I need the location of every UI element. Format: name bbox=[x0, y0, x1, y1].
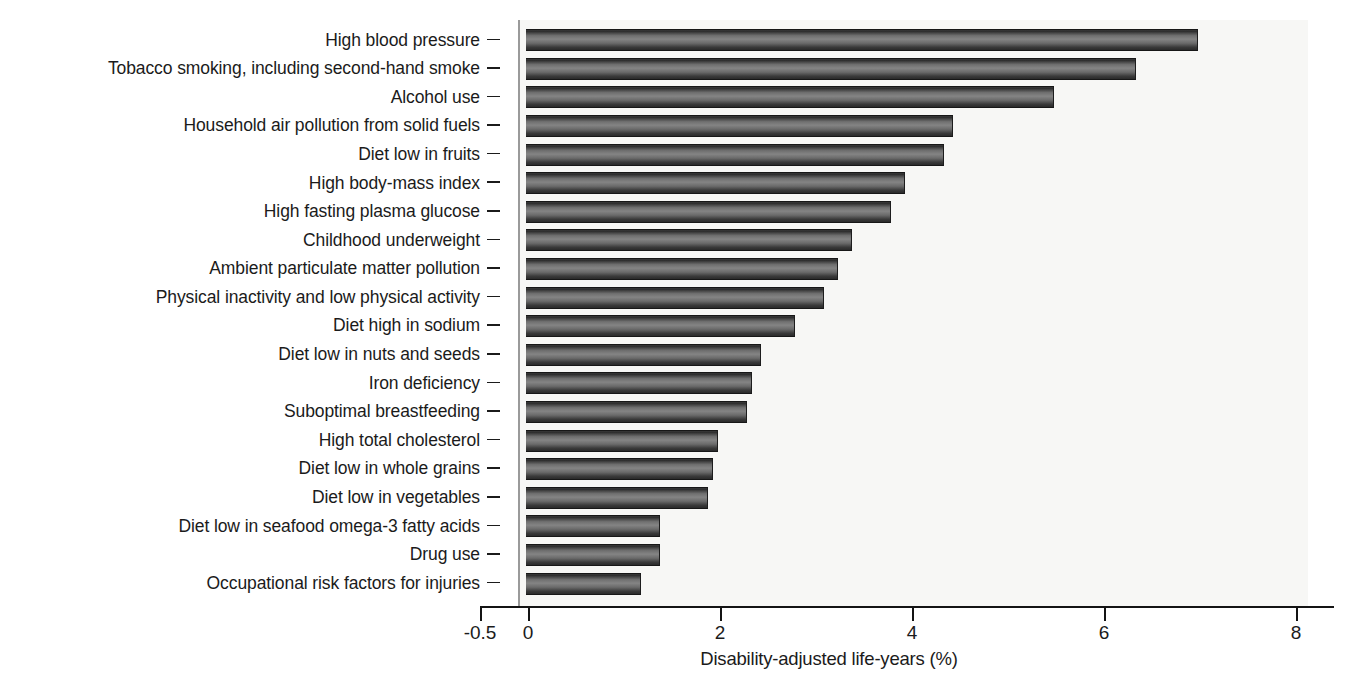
category-label-row: High body-mass index bbox=[0, 169, 500, 198]
bar bbox=[526, 115, 953, 137]
bar bbox=[526, 229, 852, 251]
x-tick-label: 8 bbox=[1291, 622, 1302, 644]
category-label: High fasting plasma glucose bbox=[264, 203, 480, 221]
x-tick-mark bbox=[912, 608, 914, 621]
category-tick-mark bbox=[487, 439, 500, 441]
category-label: Diet low in vegetables bbox=[312, 489, 480, 507]
bar bbox=[526, 29, 1198, 51]
category-label: Diet low in whole grains bbox=[299, 460, 480, 478]
category-tick-mark bbox=[487, 39, 500, 41]
bar bbox=[526, 401, 747, 423]
category-label: Iron deficiency bbox=[369, 375, 480, 393]
category-label-row: High blood pressure bbox=[0, 26, 500, 55]
category-label: Diet low in nuts and seeds bbox=[278, 346, 480, 364]
category-label: Physical inactivity and low physical act… bbox=[156, 289, 480, 307]
category-tick-mark bbox=[487, 153, 500, 155]
bar bbox=[526, 315, 795, 337]
x-axis-title: Disability-adjusted life-years (%) bbox=[0, 648, 1368, 670]
category-label-row: Tobacco smoking, including second-hand s… bbox=[0, 55, 500, 84]
category-label: High body-mass index bbox=[309, 175, 480, 193]
bar-row bbox=[526, 283, 1308, 312]
category-label-row: Suboptimal breastfeeding bbox=[0, 398, 500, 427]
category-label: Suboptimal breastfeeding bbox=[284, 403, 480, 421]
bar bbox=[526, 201, 891, 223]
category-label: Diet high in sodium bbox=[333, 317, 480, 335]
category-label-row: Diet low in vegetables bbox=[0, 484, 500, 513]
category-tick-mark bbox=[487, 96, 500, 98]
bar bbox=[526, 58, 1136, 80]
category-label-row: High total cholesterol bbox=[0, 426, 500, 455]
category-label-row: Diet low in whole grains bbox=[0, 455, 500, 484]
x-tick-label: -0.5 bbox=[464, 622, 497, 644]
category-label-row: Iron deficiency bbox=[0, 369, 500, 398]
category-label-row: Diet low in fruits bbox=[0, 140, 500, 169]
category-label-row: Diet low in seafood omega-3 fatty acids bbox=[0, 512, 500, 541]
x-tick-mark bbox=[1296, 608, 1298, 621]
category-tick-mark bbox=[487, 181, 500, 183]
bar bbox=[526, 344, 761, 366]
x-tick-label: 0 bbox=[523, 622, 534, 644]
bar-row bbox=[526, 398, 1308, 427]
bar-row bbox=[526, 83, 1308, 112]
category-axis-labels: High blood pressureTobacco smoking, incl… bbox=[0, 26, 500, 598]
bar-row bbox=[526, 226, 1308, 255]
category-label: Childhood underweight bbox=[303, 232, 480, 250]
category-tick-mark bbox=[487, 67, 500, 69]
bar-row bbox=[526, 55, 1308, 84]
category-label: Ambient particulate matter pollution bbox=[209, 260, 480, 278]
x-tick-mark bbox=[528, 608, 530, 621]
category-tick-mark bbox=[487, 124, 500, 126]
category-tick-mark bbox=[487, 553, 500, 555]
bar bbox=[526, 287, 824, 309]
category-label-row: Alcohol use bbox=[0, 83, 500, 112]
category-label: Occupational risk factors for injuries bbox=[207, 575, 480, 593]
category-tick-mark bbox=[487, 324, 500, 326]
category-label: Tobacco smoking, including second-hand s… bbox=[108, 60, 480, 78]
category-tick-mark bbox=[487, 210, 500, 212]
category-label: High blood pressure bbox=[325, 32, 480, 50]
bar bbox=[526, 172, 905, 194]
category-label: Alcohol use bbox=[391, 89, 480, 107]
bar-row bbox=[526, 312, 1308, 341]
bar bbox=[526, 573, 641, 595]
category-label-row: High fasting plasma glucose bbox=[0, 198, 500, 227]
category-tick-mark bbox=[487, 467, 500, 469]
bar bbox=[526, 544, 660, 566]
bar-row bbox=[526, 426, 1308, 455]
category-label: High total cholesterol bbox=[319, 432, 480, 450]
bar-row bbox=[526, 341, 1308, 370]
category-label: Diet low in seafood omega-3 fatty acids bbox=[178, 518, 480, 536]
bar-row bbox=[526, 140, 1308, 169]
category-tick-mark bbox=[487, 267, 500, 269]
plot-area bbox=[518, 20, 1308, 608]
bar-row bbox=[526, 569, 1308, 598]
category-label-row: Household air pollution from solid fuels bbox=[0, 112, 500, 141]
bar-row bbox=[526, 484, 1308, 513]
category-label-row: Drug use bbox=[0, 541, 500, 570]
bar-row bbox=[526, 541, 1308, 570]
bar-row bbox=[526, 169, 1308, 198]
category-tick-mark bbox=[487, 582, 500, 584]
category-tick-mark bbox=[487, 353, 500, 355]
category-label: Drug use bbox=[410, 546, 480, 564]
category-tick-mark bbox=[487, 382, 500, 384]
category-label: Household air pollution from solid fuels bbox=[183, 117, 480, 135]
bar-row bbox=[526, 255, 1308, 284]
bar-row bbox=[526, 369, 1308, 398]
bar bbox=[526, 430, 718, 452]
bar-row bbox=[526, 112, 1308, 141]
bar-row bbox=[526, 26, 1308, 55]
y-axis-line bbox=[518, 20, 520, 608]
x-tick-label: 4 bbox=[907, 622, 918, 644]
bar bbox=[526, 86, 1054, 108]
x-tick-mark bbox=[480, 608, 482, 621]
x-tick-label: 2 bbox=[715, 622, 726, 644]
bar-row bbox=[526, 512, 1308, 541]
category-label-row: Diet low in nuts and seeds bbox=[0, 341, 500, 370]
category-label: Diet low in fruits bbox=[358, 146, 480, 164]
category-label-row: Childhood underweight bbox=[0, 226, 500, 255]
bar-row bbox=[526, 198, 1308, 227]
category-label-row: Ambient particulate matter pollution bbox=[0, 255, 500, 284]
category-label-row: Occupational risk factors for injuries bbox=[0, 569, 500, 598]
bar-row bbox=[526, 455, 1308, 484]
